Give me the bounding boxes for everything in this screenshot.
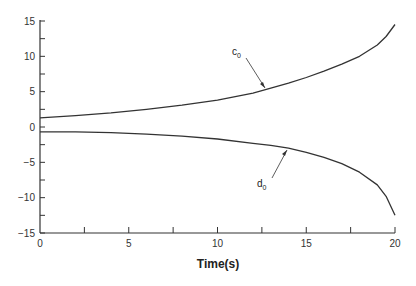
curves bbox=[40, 25, 395, 216]
y-tick-label: −10 bbox=[18, 192, 35, 203]
chart-canvas: 151050−5−10−1505101520 Time(s) c0 d0 bbox=[0, 0, 416, 286]
c0-label: c0 bbox=[232, 46, 241, 59]
c0-arrow-head bbox=[260, 82, 265, 88]
x-tick-label: 5 bbox=[126, 238, 132, 249]
y-tick-label: 15 bbox=[24, 16, 36, 27]
x-tick-label: 10 bbox=[212, 238, 224, 249]
x-tick-label: 20 bbox=[389, 238, 401, 249]
y-tick-label: 5 bbox=[29, 86, 35, 97]
x-tick-label: 15 bbox=[301, 238, 313, 249]
axes bbox=[40, 20, 395, 233]
d0-label: d0 bbox=[257, 178, 267, 191]
d0-arrow-head bbox=[282, 150, 287, 156]
y-tick-label: 0 bbox=[29, 122, 35, 133]
curve-c0 bbox=[40, 25, 395, 118]
curve-d0 bbox=[40, 132, 395, 215]
c0-annotation: c0 bbox=[232, 46, 265, 88]
d0-annotation: d0 bbox=[257, 150, 287, 191]
y-tick-label: 10 bbox=[24, 51, 36, 62]
x-axis-label: Time(s) bbox=[197, 257, 239, 271]
y-tick-label: −15 bbox=[18, 228, 35, 239]
x-tick-label: 0 bbox=[37, 238, 43, 249]
y-tick-label: −5 bbox=[24, 157, 36, 168]
